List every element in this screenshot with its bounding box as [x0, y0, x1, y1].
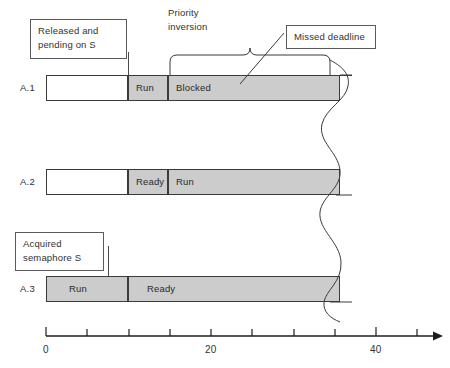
axis-arrowhead [433, 332, 443, 341]
axis-tick-label-20: 20 [205, 344, 217, 355]
callout-released-line2: pending on S [38, 38, 120, 52]
callout-released-pending: Released and pending on S [30, 19, 127, 59]
timing-diagram: Released and pending on S Priority inver… [0, 0, 450, 368]
callout-acquired-semaphore: Acquired semaphore S [15, 232, 104, 271]
row-label-a2: A.2 [20, 176, 35, 187]
segment-a3-run: Run [46, 276, 128, 302]
segment-a2-ready: Ready [128, 169, 168, 195]
axis-ticks [46, 327, 417, 336]
label-priority-inversion: Priority inversion [168, 6, 207, 33]
axis-tick-label-0: 0 [43, 344, 49, 355]
callout-missed-deadline: Missed deadline [286, 25, 376, 49]
priority-inversion-brace [170, 48, 330, 75]
axis-tick-label-40: 40 [370, 344, 382, 355]
marker-line-released [128, 52, 129, 76]
segment-a2-run: Run [168, 169, 340, 195]
row-label-a1: A.1 [20, 82, 35, 93]
segment-a1-run: Run [128, 75, 168, 101]
priority-inversion-line1: Priority [168, 7, 199, 18]
segment-a2-idle [46, 169, 128, 195]
segment-a1-blocked: Blocked [168, 75, 340, 101]
segment-a1-idle [46, 75, 128, 101]
segment-a3-ready: Ready [128, 276, 340, 302]
callout-missed-line1: Missed deadline [294, 30, 369, 44]
callout-acquired-line2: semaphore S [23, 251, 97, 265]
callout-released-line1: Released and [38, 24, 120, 38]
row-label-a3: A.3 [20, 283, 35, 294]
priority-inversion-line2: inversion [168, 21, 207, 32]
callout-acquired-line1: Acquired [23, 237, 97, 251]
